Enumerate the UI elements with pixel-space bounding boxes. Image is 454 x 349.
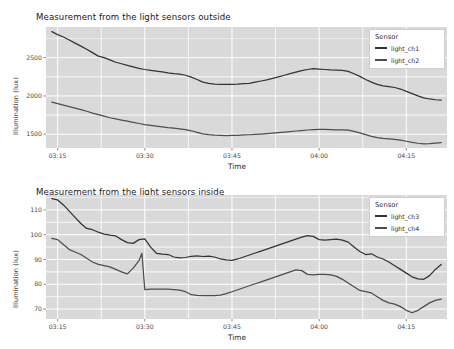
legend-label: light_ch2	[391, 57, 419, 64]
svg-text:04:15: 04:15	[397, 152, 415, 159]
svg-text:110: 110	[30, 206, 42, 213]
svg-text:90: 90	[34, 256, 42, 263]
svg-text:03:30: 03:30	[136, 152, 154, 159]
svg-text:100: 100	[30, 231, 42, 238]
legend-color-key-icon	[375, 227, 387, 229]
legend-label: light_ch1	[391, 45, 419, 52]
svg-text:03:45: 03:45	[223, 152, 241, 159]
x-axis-title-inside: Time	[228, 333, 246, 342]
svg-text:04:00: 04:00	[310, 323, 328, 330]
legend-title-inside: Sensor	[370, 198, 444, 210]
legend-color-key-icon	[375, 215, 387, 217]
figure-container: Measurement from the light sensors outsi…	[0, 0, 454, 349]
svg-text:03:45: 03:45	[223, 323, 241, 330]
svg-text:03:30: 03:30	[136, 323, 154, 330]
svg-text:04:15: 04:15	[397, 323, 415, 330]
legend-outside[interactable]: Sensor light_ch1 light_ch2	[369, 29, 445, 69]
svg-text:03:15: 03:15	[49, 323, 67, 330]
legend-item-light-ch4[interactable]: light_ch4	[370, 222, 444, 234]
svg-text:1500: 1500	[26, 130, 42, 137]
plot-area-outside: 15002000250003:1503:3003:4504:0004:15	[0, 0, 454, 175]
svg-text:03:15: 03:15	[49, 152, 67, 159]
legend-title-outside: Sensor	[370, 30, 444, 42]
legend-label: light_ch3	[391, 213, 419, 220]
chart-panel-inside: Measurement from the light sensors insid…	[0, 175, 454, 349]
svg-text:70: 70	[34, 305, 42, 312]
x-axis-title-outside: Time	[228, 162, 246, 171]
legend-label: light_ch4	[391, 225, 419, 232]
legend-color-key-icon	[375, 47, 387, 49]
chart-panel-outside: Measurement from the light sensors outsi…	[0, 0, 454, 175]
legend-inside[interactable]: Sensor light_ch3 light_ch4	[369, 197, 445, 237]
legend-item-light-ch1[interactable]: light_ch1	[370, 42, 444, 54]
legend-item-light-ch3[interactable]: light_ch3	[370, 210, 444, 222]
legend-color-key-icon	[375, 59, 387, 61]
legend-item-light-ch2[interactable]: light_ch2	[370, 54, 444, 66]
svg-text:80: 80	[34, 280, 42, 287]
svg-text:04:00: 04:00	[310, 152, 328, 159]
svg-text:2000: 2000	[26, 92, 42, 99]
svg-text:2500: 2500	[26, 54, 42, 61]
